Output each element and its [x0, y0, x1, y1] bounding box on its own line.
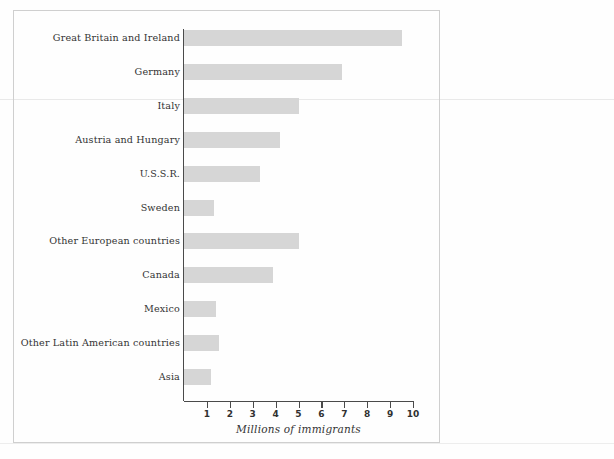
bar	[184, 166, 260, 182]
value-axis-title: Millions of immigrants	[184, 423, 413, 435]
category-axis-line	[183, 29, 184, 401]
bar	[184, 267, 273, 283]
tick-mark	[276, 401, 277, 408]
bar	[184, 30, 402, 46]
category-label: Italy	[157, 100, 180, 112]
tick-label: 4	[272, 409, 278, 419]
bar	[184, 335, 219, 351]
tick-mark	[413, 401, 414, 408]
tick-label: 6	[318, 409, 324, 419]
category-label: Other European countries	[49, 235, 180, 247]
tick-mark	[390, 401, 391, 408]
bar	[184, 233, 299, 249]
tick-label: 9	[387, 409, 393, 419]
category-label: Great Britain and Ireland	[53, 32, 180, 44]
tick-label: 5	[295, 409, 301, 419]
tick-mark	[299, 401, 300, 408]
category-label: U.S.S.R.	[140, 168, 180, 180]
tick-label: 8	[364, 409, 370, 419]
tick-mark	[230, 401, 231, 408]
tick-label: 3	[250, 409, 256, 419]
tick-mark	[367, 401, 368, 408]
category-label: Canada	[142, 269, 180, 281]
tick-mark	[344, 401, 345, 408]
figure-frame: Great Britain and IrelandGermanyItalyAus…	[13, 10, 440, 443]
tick-label: 1	[204, 409, 210, 419]
tick-mark	[253, 401, 254, 408]
tick-label: 2	[227, 409, 233, 419]
tick-mark	[207, 401, 208, 408]
category-label: Other Latin American countries	[21, 337, 180, 349]
tick-label: 7	[341, 409, 347, 419]
category-label: Mexico	[144, 303, 180, 315]
bar-chart-plot-area: Great Britain and IrelandGermanyItalyAus…	[14, 11, 441, 444]
category-label: Asia	[159, 371, 180, 383]
page-background: Great Britain and IrelandGermanyItalyAus…	[0, 0, 614, 459]
bar	[184, 369, 211, 385]
category-label: Sweden	[141, 202, 180, 214]
bar	[184, 200, 214, 216]
bar	[184, 301, 216, 317]
category-label: Austria and Hungary	[75, 134, 180, 146]
bar	[184, 98, 299, 114]
bar	[184, 132, 280, 148]
bar	[184, 64, 342, 80]
tick-label: 10	[407, 409, 420, 419]
tick-mark	[321, 401, 322, 408]
category-label: Germany	[135, 66, 180, 78]
